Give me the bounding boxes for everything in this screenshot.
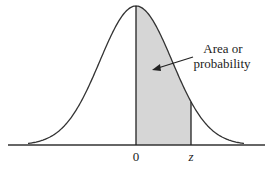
shaded-area [136, 6, 191, 145]
diagram-canvas: Area or probability 0 z [0, 0, 271, 170]
normal-distribution-diagram: Area or probability 0 z [0, 0, 271, 170]
label-z: z [187, 149, 193, 164]
annotation-line1: Area or [203, 41, 243, 56]
annotation-line2: probability [193, 56, 251, 71]
label-zero: 0 [133, 149, 140, 164]
